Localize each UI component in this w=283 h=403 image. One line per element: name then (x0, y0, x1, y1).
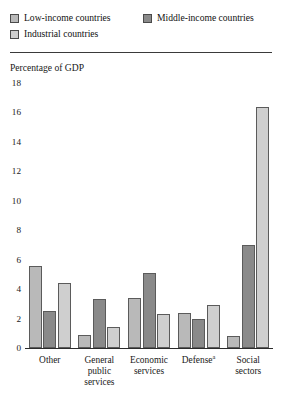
bar-general-public-services-low-income-countries (78, 335, 91, 348)
bar-other-low-income-countries (29, 266, 42, 348)
bar-group-defense (178, 83, 220, 348)
bar-defense-industrial-countries (207, 305, 220, 348)
y-tick-4: 4 (0, 284, 21, 294)
y-tick-18: 18 (0, 78, 21, 88)
x-label-line: Social (217, 355, 279, 366)
x-label-line: services (118, 366, 180, 377)
bar-social-sectors-low-income-countries (227, 336, 240, 348)
bar-general-public-services-industrial-countries (107, 327, 120, 348)
x-label-line: services (69, 377, 131, 388)
bar-economic-services-middle-income-countries (143, 273, 156, 348)
bar-other-industrial-countries (58, 283, 71, 348)
bar-group-social-sectors (227, 83, 269, 348)
bar-group-other (29, 83, 71, 348)
y-tick-12: 12 (0, 166, 21, 176)
x-label-line: sectors (217, 366, 279, 377)
bar-social-sectors-middle-income-countries (242, 245, 255, 348)
figure-chart-government-spending: Low-income countries Middle-income count… (0, 0, 283, 403)
bar-group-economic-services (128, 83, 170, 348)
bars-container (25, 83, 273, 348)
y-tick-6: 6 (0, 255, 21, 265)
bar-defense-middle-income-countries (192, 319, 205, 348)
x-axis-baseline (25, 348, 273, 349)
y-tick-10: 10 (0, 196, 21, 206)
bar-other-middle-income-countries (43, 311, 56, 348)
y-tick-16: 16 (0, 107, 21, 117)
plot-area: 181614121086420 OtherGeneralpublicservic… (0, 0, 283, 403)
footnote-marker: a (213, 353, 216, 360)
y-tick-0: 0 (0, 343, 21, 353)
bar-economic-services-industrial-countries (157, 314, 170, 348)
bar-social-sectors-industrial-countries (256, 107, 269, 348)
x-label-social-sectors: Socialsectors (217, 355, 279, 377)
bar-general-public-services-middle-income-countries (93, 299, 106, 348)
y-tick-8: 8 (0, 225, 21, 235)
y-tick-2: 2 (0, 314, 21, 324)
bar-group-general-public-services (78, 83, 120, 348)
bar-defense-low-income-countries (178, 313, 191, 348)
bar-economic-services-low-income-countries (128, 298, 141, 348)
y-tick-14: 14 (0, 137, 21, 147)
